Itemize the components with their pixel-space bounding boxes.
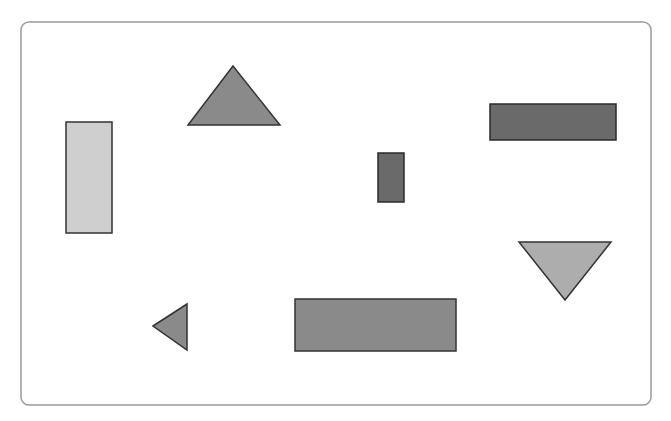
dark-wide-rectangle xyxy=(490,104,616,140)
tall-light-rectangle xyxy=(66,122,112,233)
shapes-canvas xyxy=(0,0,671,421)
small-dark-rectangle xyxy=(378,153,404,202)
wide-mid-rectangle xyxy=(295,299,456,351)
